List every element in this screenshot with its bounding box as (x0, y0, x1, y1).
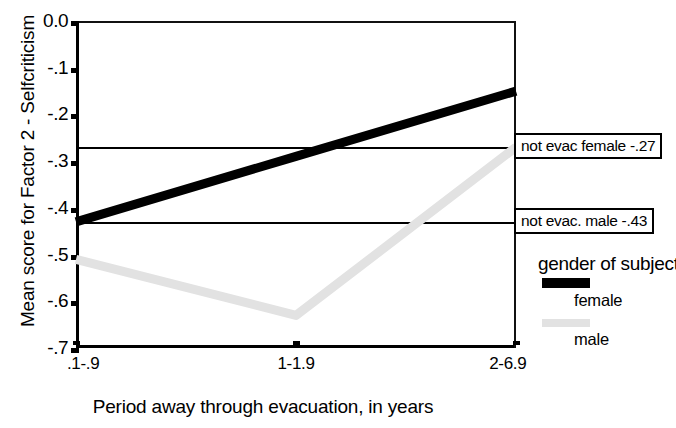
legend: gender of subject female male (538, 253, 676, 349)
x-tick-label-0: .1-.9 (67, 354, 100, 374)
y-tick-label-7: -.7 (47, 337, 68, 359)
y-tick-label-2: -.2 (47, 103, 68, 125)
x-axis-title: Period away through evacuation, in years (0, 396, 676, 418)
y-tick-label-4: -.4 (47, 197, 68, 219)
legend-item-female: female (538, 278, 676, 310)
legend-title: gender of subject (538, 253, 676, 275)
legend-item-male: male (538, 319, 676, 349)
y-axis-title: Mean score for Factor 2 - Selfcriticism (17, 0, 39, 351)
plot-area: 0.0 -.1 -.2 -.3 -.4 -.5 -.6 -.7 .1-.9 1-… (76, 21, 516, 348)
y-tick-label-5: -.5 (47, 244, 68, 266)
annotation-not-evac-female: not evac female -.27 (514, 133, 662, 159)
y-tick-label-1: -.1 (47, 57, 68, 79)
y-tick-label-3: -.3 (47, 150, 68, 172)
series-line-male (76, 147, 516, 315)
legend-swatch-male-icon (542, 319, 590, 327)
y-tick-label-6: -.6 (47, 290, 68, 312)
x-tick-label-2: 2-6.9 (489, 354, 526, 374)
legend-label-female: female (574, 291, 676, 310)
y-tick-7 (71, 348, 79, 353)
annotation-not-evac-male: not evac. male -.43 (514, 208, 654, 234)
legend-swatch-female-icon (542, 278, 590, 288)
y-tick-label-0: 0.0 (43, 10, 68, 32)
chart-figure: Mean score for Factor 2 - Selfcriticism … (0, 0, 676, 428)
legend-label-male: male (574, 330, 676, 349)
series-layer (76, 21, 516, 348)
x-tick-label-1: 1-1.9 (277, 354, 314, 374)
